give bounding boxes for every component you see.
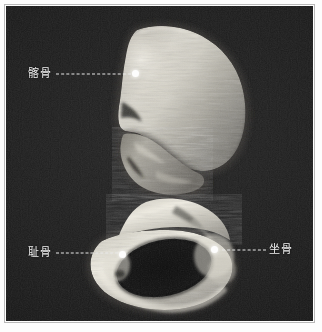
- annotation-label-pubis: 耻骨: [28, 247, 51, 259]
- annotation-dot-ilium[interactable]: [132, 70, 139, 77]
- leader-line-ilium: [56, 74, 131, 75]
- annotation-label-ilium: 髂骨: [28, 68, 51, 80]
- ct-scan-plate: 髂骨 耻骨 坐骨: [6, 6, 313, 321]
- leader-line-pubis: [56, 253, 118, 254]
- pubis-ischium-ring: [84, 199, 240, 318]
- annotation-dot-ischium[interactable]: [211, 246, 218, 253]
- anatomical-figure: 髂骨 耻骨 坐骨: [0, 0, 322, 332]
- annotation-dot-pubis[interactable]: [119, 251, 126, 258]
- annotation-label-ischium: 坐骨: [269, 244, 292, 256]
- hip-bone-rendering: [6, 6, 313, 321]
- leader-line-ischium: [222, 250, 266, 251]
